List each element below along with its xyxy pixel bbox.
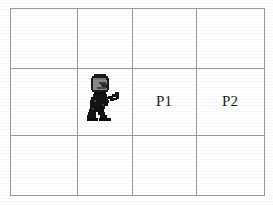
grid-cell-r2c1[interactable] [77,135,132,195]
grid-line-horizontal-3 [10,195,265,196]
grid-cell-r1c3[interactable]: P2 [196,68,264,135]
grid-cell-r0c0[interactable] [10,8,77,68]
grid-cell-r0c3[interactable] [196,8,264,68]
grid-cell-r1c0[interactable] [10,68,77,135]
grid-cell-r2c2[interactable] [132,135,196,195]
cell-label-p2: P2 [222,94,238,109]
robot-sprite[interactable] [86,72,122,124]
grid-cell-r0c1[interactable] [77,8,132,68]
grid-cell-r2c3[interactable] [196,135,264,195]
grid: P1 P2 [10,8,265,196]
grid-line-vertical-4 [264,8,265,196]
grid-cell-r0c2[interactable] [132,8,196,68]
gridworld-scene: P1 P2 [0,0,273,205]
grid-cell-r2c0[interactable] [10,135,77,195]
grid-cell-r1c2[interactable]: P1 [132,68,196,135]
cell-label-p1: P1 [156,94,172,109]
